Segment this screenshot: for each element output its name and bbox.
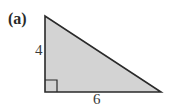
- right-triangle-diagram: [0, 0, 171, 108]
- horizontal-leg-label: 6: [93, 91, 101, 107]
- triangle-shape: [45, 16, 161, 92]
- vertical-leg-label: 4: [35, 42, 43, 58]
